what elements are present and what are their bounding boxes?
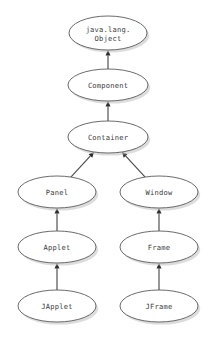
class-node-japplet[interactable]: JApplet bbox=[18, 290, 98, 325]
edge-window-to-container bbox=[122, 152, 145, 177]
edge-applet-to-panel bbox=[55, 208, 60, 231]
class-node-jframe[interactable]: JFrame bbox=[120, 290, 200, 325]
node-label: Component bbox=[88, 81, 128, 90]
class-node-object[interactable]: java.lang.Object bbox=[69, 16, 149, 53]
node-label: Container bbox=[88, 133, 128, 142]
node-label: Applet bbox=[44, 243, 71, 252]
class-node-window[interactable]: Window bbox=[120, 176, 200, 211]
edge-japplet-to-applet bbox=[55, 263, 60, 290]
node-label-line1: java.lang. bbox=[86, 25, 131, 34]
class-node-component[interactable]: Component bbox=[68, 69, 150, 104]
edge-container-to-component bbox=[106, 101, 111, 121]
hierarchy-canvas: java.lang.ObjectComponentContainerPanelW… bbox=[0, 0, 216, 340]
node-label-line2: Object bbox=[95, 34, 122, 43]
edge-jframe-to-frame bbox=[157, 263, 162, 290]
edge-panel-to-container bbox=[71, 152, 94, 177]
node-label: Panel bbox=[46, 188, 68, 197]
node-label: Frame bbox=[148, 243, 170, 252]
class-node-panel[interactable]: Panel bbox=[18, 176, 98, 211]
edge-line bbox=[71, 156, 91, 177]
nodes-layer: java.lang.ObjectComponentContainerPanelW… bbox=[18, 16, 200, 325]
class-node-container[interactable]: Container bbox=[68, 121, 150, 156]
class-hierarchy-diagram: java.lang.ObjectComponentContainerPanelW… bbox=[0, 0, 216, 340]
class-node-frame[interactable]: Frame bbox=[120, 231, 200, 266]
node-label: JFrame bbox=[146, 302, 173, 311]
edge-component-to-object bbox=[106, 50, 111, 69]
class-node-applet[interactable]: Applet bbox=[18, 231, 98, 266]
node-label: JApplet bbox=[41, 302, 72, 311]
edge-line bbox=[126, 156, 146, 177]
node-label: Window bbox=[146, 188, 173, 197]
edge-frame-to-window bbox=[157, 208, 162, 231]
